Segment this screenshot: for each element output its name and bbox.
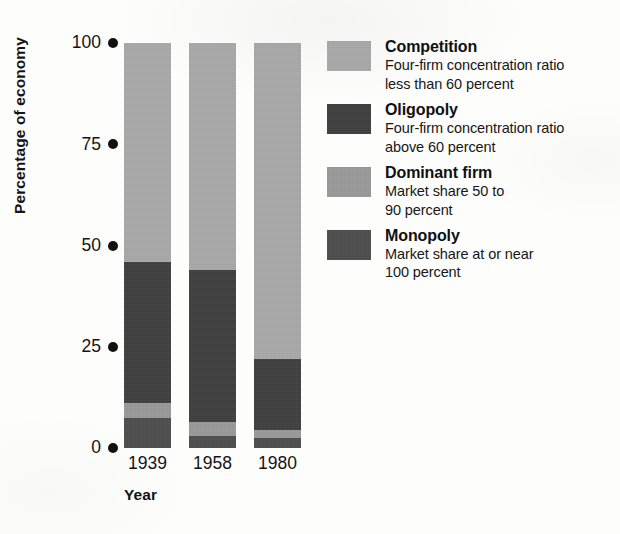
x-axis-title: Year [124,486,157,504]
y-tick-label: 50 [82,237,101,255]
y-tick-dot-icon [108,342,118,352]
legend-swatch-icon [327,230,371,260]
bar-segment-dominant[interactable] [124,403,171,417]
bar-stack [189,43,236,448]
legend-swatch-icon [327,41,371,71]
legend-swatch-icon [327,104,371,134]
x-tick-label-1958: 1958 [189,455,236,473]
bar-stack [124,43,171,448]
y-tick-25: 25 [44,337,118,357]
y-tick-100: 100 [44,33,118,53]
bar-segment-oligopoly[interactable] [254,359,301,430]
bar-segment-competition[interactable] [124,43,171,262]
bar-segment-dominant[interactable] [254,430,301,438]
legend-item-description: Four-firm concentration ratio above 60 p… [385,119,615,156]
chart-legend: CompetitionFour-firm concentration ratio… [327,38,615,290]
legend-item-title: Dominant firm [385,164,615,182]
y-tick-0: 0 [44,438,118,458]
legend-item-description: Market share at or near 100 percent [385,245,615,282]
legend-swatch-icon [327,167,371,197]
legend-item-title: Oligopoly [385,101,615,119]
y-axis-ticks: 1007550250 [32,0,118,534]
y-tick-50: 50 [44,236,118,256]
x-tick-label-1980: 1980 [254,455,301,473]
bar-segment-oligopoly[interactable] [189,270,236,422]
legend-item-description: Four-firm concentration ratio less than … [385,56,615,93]
chart-plot-area: Percentage of economy 1007550250 1939195… [0,0,320,534]
bar-segment-competition[interactable] [189,43,236,270]
y-tick-label: 75 [82,136,101,154]
legend-item-dominant-firm[interactable]: Dominant firmMarket share 50 to 90 perce… [327,164,615,219]
bar-segment-monopoly[interactable] [124,418,171,448]
y-tick-dot-icon [108,38,118,48]
legend-item-description: Market share 50 to 90 percent [385,182,615,219]
bar-segment-monopoly[interactable] [254,438,301,448]
y-tick-label: 0 [91,439,101,457]
bar-segment-competition[interactable] [254,43,301,359]
legend-item-competition[interactable]: CompetitionFour-firm concentration ratio… [327,38,615,93]
y-tick-label: 100 [72,34,101,52]
legend-item-monopoly[interactable]: MonopolyMarket share at or near 100 perc… [327,227,615,282]
legend-item-title: Competition [385,38,615,56]
y-tick-75: 75 [44,134,118,154]
bar-segment-oligopoly[interactable] [124,262,171,404]
bar-stack [254,43,301,448]
bar-group: 193919581980 [124,0,304,534]
y-tick-label: 25 [82,338,101,356]
bar-segment-dominant[interactable] [189,422,236,436]
y-tick-dot-icon [108,443,118,453]
legend-item-oligopoly[interactable]: OligopolyFour-firm concentration ratio a… [327,101,615,156]
y-tick-dot-icon [108,139,118,149]
legend-item-title: Monopoly [385,227,615,245]
chart-page: Percentage of economy 1007550250 1939195… [0,0,620,534]
bar-segment-monopoly[interactable] [189,436,236,448]
x-tick-label-1939: 1939 [124,455,171,473]
y-tick-dot-icon [108,241,118,251]
